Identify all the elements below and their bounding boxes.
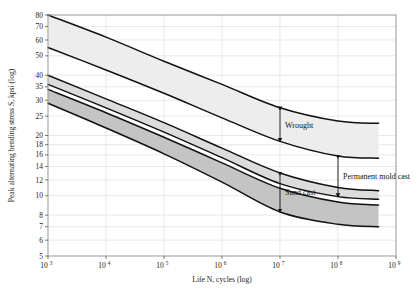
svg-text:10: 10 [40,261,48,270]
annotation-label-wrought: Wrought [285,121,314,130]
ytick-label: 6 [39,236,43,245]
annotation-label-sand-cast: Sand cast [285,188,316,197]
ytick-label: 5 [39,252,43,261]
ytick-label: 14 [36,162,44,171]
svg-text:9: 9 [398,260,401,266]
svg-text:6: 6 [224,260,227,266]
ytick-label: 12 [36,176,44,185]
ytick-label: 8 [39,211,43,220]
ytick-label: 7 [39,222,43,231]
svg-text:8: 8 [340,260,343,266]
ytick-label: 50 [36,51,44,60]
xtick-label: 104 [98,260,111,271]
svg-text:4: 4 [108,260,111,266]
ytick-label: 18 [36,140,44,149]
ytick-label: 30 [36,96,44,105]
xtick-label: 108 [330,260,343,271]
ytick-label: 35 [36,82,44,91]
svg-text:3: 3 [50,260,53,266]
ytick-label: 10 [36,191,44,200]
y-axis-title: Peak alternating bending stress S, kpsi … [7,68,16,202]
svg-text:10: 10 [272,261,280,270]
svg-text:10: 10 [214,261,222,270]
xtick-label: 105 [156,260,169,271]
figure-container: 8070605040353025201816141210876510310410… [0,0,417,301]
svg-text:10: 10 [330,261,338,270]
xtick-label: 103 [40,260,53,271]
svg-text:10: 10 [388,261,396,270]
annotation-label-permanent-mold-cast: Permanent mold cast [343,172,411,181]
ytick-label: 16 [36,150,44,159]
svg-text:10: 10 [156,261,164,270]
svg-text:5: 5 [166,260,169,266]
svg-text:7: 7 [282,260,285,266]
ytick-label: 40 [36,71,44,80]
ytick-label: 70 [36,22,44,31]
x-axis-title: Life N, cycles (log) [192,275,252,284]
xtick-label: 109 [388,260,401,271]
xtick-label: 106 [214,260,227,271]
xtick-label: 107 [272,260,285,271]
ytick-label: 25 [36,112,44,121]
ytick-label: 60 [36,36,44,45]
ytick-label: 80 [36,11,44,20]
ytick-label: 20 [36,131,44,140]
svg-text:10: 10 [98,261,106,270]
